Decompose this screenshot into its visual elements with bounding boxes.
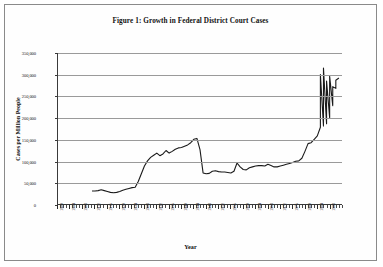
x-tick-label: 1980 [307, 203, 312, 211]
x-tick-minor [203, 205, 204, 208]
x-tick-minor [150, 205, 151, 208]
gridline [58, 140, 342, 141]
x-tick-major [57, 205, 58, 209]
y-tick-mark [55, 53, 58, 54]
figure-frame: Figure 1: Growth in Federal District Cou… [4, 4, 377, 261]
x-tick-major [156, 205, 157, 209]
x-tick-minor [190, 205, 191, 208]
x-tick-label: 1912 [96, 203, 101, 211]
x-axis-ticks: 1900190419081912191619201924192819321936… [57, 205, 342, 245]
x-tick-label: 1956 [232, 203, 237, 211]
x-tick-major [218, 205, 219, 209]
y-tick-mark [55, 96, 58, 97]
figure-title: Figure 1: Growth in Federal District Cou… [5, 17, 376, 25]
x-tick-label: 1916 [108, 203, 113, 211]
x-tick-label: 1944 [195, 203, 200, 211]
y-tick-label: 200,000 [22, 116, 36, 121]
x-tick-minor [79, 205, 80, 208]
x-tick-major [280, 205, 281, 209]
x-tick-minor [88, 205, 89, 208]
x-tick-label: 1948 [207, 203, 212, 211]
y-tick-label: 250,000 [22, 94, 36, 99]
x-tick-major [243, 205, 244, 209]
x-tick-label: 1964 [257, 203, 262, 211]
x-tick-minor [178, 205, 179, 208]
x-tick-label: 1940 [183, 203, 188, 211]
plot-area [57, 53, 342, 205]
x-tick-major [181, 205, 182, 209]
x-tick-minor [289, 205, 290, 208]
x-tick-minor [128, 205, 129, 208]
x-tick-minor [265, 205, 266, 208]
x-tick-label: 1924 [133, 203, 138, 211]
x-tick-minor [91, 205, 92, 208]
x-tick-label: 1976 [294, 203, 299, 211]
x-tick-minor [116, 205, 117, 208]
x-tick-minor [165, 205, 166, 208]
x-tick-label: 1960 [245, 203, 250, 211]
y-tick-label: 350,000 [22, 51, 36, 56]
x-tick-major [305, 205, 306, 209]
x-tick-label: 1988 [331, 203, 336, 211]
x-tick-minor [141, 205, 142, 208]
gridline [58, 75, 342, 76]
y-tick-label: 100,000 [22, 159, 36, 164]
x-axis-title: Year [5, 243, 376, 250]
y-tick-label: 50,000 [24, 181, 36, 186]
gridline [58, 96, 342, 97]
x-tick-label: 1932 [158, 203, 163, 211]
x-tick-minor [212, 205, 213, 208]
y-tick-mark [55, 75, 58, 76]
x-tick-label: 1952 [220, 203, 225, 211]
x-tick-label: 1968 [269, 203, 274, 211]
y-tick-mark [55, 140, 58, 141]
gridline [58, 183, 342, 184]
gridline [58, 118, 342, 119]
y-tick-label: 300,000 [22, 72, 36, 77]
x-tick-minor [153, 205, 154, 208]
y-axis-title: Cases per Million People [15, 97, 21, 160]
y-tick-mark [55, 162, 58, 163]
gridline [58, 53, 342, 54]
y-tick-mark [55, 118, 58, 119]
x-tick-minor [66, 205, 67, 208]
x-tick-label: 1920 [121, 203, 126, 211]
y-tick-mark [55, 183, 58, 184]
x-tick-minor [252, 205, 253, 208]
x-tick-label: 1984 [319, 203, 324, 211]
y-tick-label: 150,000 [22, 137, 36, 142]
x-tick-label: 1936 [170, 203, 175, 211]
y-tick-label: 0 [34, 203, 36, 208]
x-tick-major [119, 205, 120, 209]
gridline [58, 162, 342, 163]
x-tick-minor [342, 205, 343, 208]
x-tick-minor [215, 205, 216, 208]
x-tick-label: 1904 [71, 203, 76, 211]
x-tick-minor [227, 205, 228, 208]
x-tick-minor [314, 205, 315, 208]
x-tick-minor [339, 205, 340, 208]
x-tick-minor [103, 205, 104, 208]
x-tick-label: 1972 [282, 203, 287, 211]
x-tick-minor [240, 205, 241, 208]
x-tick-minor [277, 205, 278, 208]
x-tick-minor [327, 205, 328, 208]
x-tick-label: 1900 [59, 203, 64, 211]
x-tick-label: 1928 [145, 203, 150, 211]
x-tick-label: 1908 [83, 203, 88, 211]
x-tick-minor [302, 205, 303, 208]
